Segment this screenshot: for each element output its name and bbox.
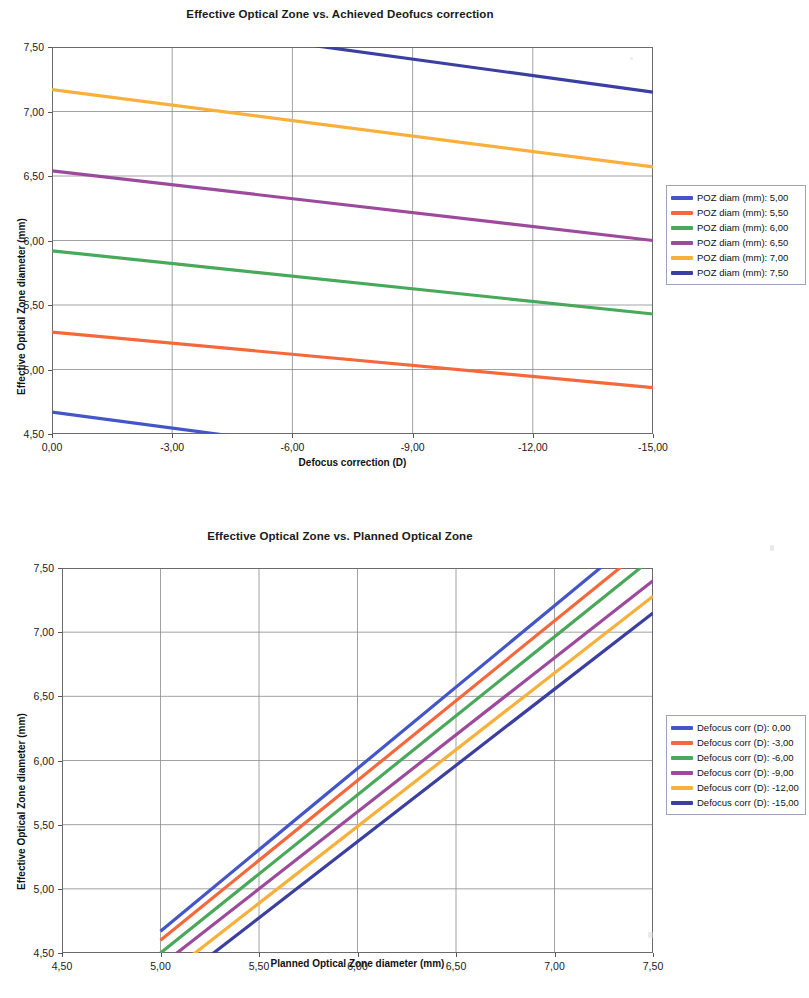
y-tick-label: 4,50 <box>20 947 54 959</box>
x-tick-mark <box>52 434 53 438</box>
legend-label: POZ diam (mm): 7,50 <box>697 268 788 278</box>
legend-color-swatch <box>671 786 693 790</box>
legend-label: POZ diam (mm): 6,50 <box>697 238 788 248</box>
x-tick-label: -15,00 <box>638 441 668 453</box>
x-tick-mark <box>555 953 556 957</box>
chart1-plot-area <box>52 47 653 434</box>
legend-item[interactable]: Defocus corr (D): -9,00 <box>671 765 800 780</box>
x-tick-label: -9,00 <box>401 441 425 453</box>
legend-label: POZ diam (mm): 5,00 <box>697 193 788 203</box>
y-tick-label: 6,00 <box>10 235 44 247</box>
y-tick-label: 6,50 <box>10 170 44 182</box>
legend-item[interactable]: Defocus corr (D): -15,00 <box>671 795 800 810</box>
x-tick-label: 6,00 <box>347 960 367 972</box>
chart2-legend: Defocus corr (D): 0,00Defocus corr (D): … <box>666 715 806 815</box>
legend-label: Defocus corr (D): -3,00 <box>697 738 794 748</box>
y-tick-label: 6,00 <box>20 755 54 767</box>
legend-item[interactable]: POZ diam (mm): 5,00 <box>671 190 800 205</box>
legend-label: POZ diam (mm): 6,00 <box>697 223 788 233</box>
x-tick-mark <box>456 953 457 957</box>
legend-color-swatch <box>671 741 693 745</box>
legend-color-swatch <box>671 226 693 230</box>
legend-item[interactable]: POZ diam (mm): 6,50 <box>671 235 800 250</box>
legend-label: Defocus corr (D): -9,00 <box>697 768 794 778</box>
scan-speck <box>630 57 633 60</box>
legend-label: POZ diam (mm): 5,50 <box>697 208 788 218</box>
y-tick-label: 4,50 <box>10 428 44 440</box>
legend-color-swatch <box>671 756 693 760</box>
x-tick-label: -3,00 <box>160 441 184 453</box>
legend-color-swatch <box>671 256 693 260</box>
legend-label: Defocus corr (D): -15,00 <box>697 798 799 808</box>
x-tick-label: 6,50 <box>446 960 466 972</box>
chart-effective-vs-planned: Effective Optical Zone vs. Planned Optic… <box>0 500 809 998</box>
x-tick-mark <box>292 434 293 438</box>
legend-color-swatch <box>671 271 693 275</box>
legend-color-swatch <box>671 196 693 200</box>
x-tick-mark <box>358 953 359 957</box>
chart-effective-vs-defocus: Effective Optical Zone vs. Achieved Deof… <box>0 0 809 500</box>
x-tick-label: 7,00 <box>544 960 564 972</box>
legend-color-swatch <box>671 211 693 215</box>
legend-item[interactable]: Defocus corr (D): -3,00 <box>671 735 800 750</box>
x-tick-mark <box>653 434 654 438</box>
x-tick-mark <box>413 434 414 438</box>
x-tick-mark <box>653 953 654 957</box>
x-tick-mark <box>533 434 534 438</box>
legend-item[interactable]: Defocus corr (D): -6,00 <box>671 750 800 765</box>
legend-label: POZ diam (mm): 7,00 <box>697 253 788 263</box>
y-tick-mark <box>58 696 62 697</box>
legend-color-swatch <box>671 241 693 245</box>
y-tick-label: 5,50 <box>10 299 44 311</box>
legend-label: Defocus corr (D): 0,00 <box>697 723 790 733</box>
y-tick-mark <box>48 370 52 371</box>
y-tick-mark <box>58 889 62 890</box>
x-tick-label: -6,00 <box>280 441 304 453</box>
y-tick-label: 5,00 <box>20 883 54 895</box>
legend-color-swatch <box>671 801 693 805</box>
y-tick-mark <box>48 112 52 113</box>
y-tick-mark <box>48 47 52 48</box>
y-tick-mark <box>58 632 62 633</box>
scan-speck <box>770 545 774 551</box>
y-tick-label: 5,50 <box>20 819 54 831</box>
legend-item[interactable]: POZ diam (mm): 7,50 <box>671 265 800 280</box>
figure-page: Effective Optical Zone vs. Achieved Deof… <box>0 0 809 998</box>
scan-speck <box>648 932 653 938</box>
y-tick-mark <box>48 241 52 242</box>
y-tick-label: 7,50 <box>20 562 54 574</box>
y-tick-label: 5,00 <box>10 364 44 376</box>
legend-item[interactable]: POZ diam (mm): 6,00 <box>671 220 800 235</box>
x-tick-mark <box>259 953 260 957</box>
chart1-legend: POZ diam (mm): 5,00POZ diam (mm): 5,50PO… <box>666 185 806 285</box>
x-tick-label: -12,00 <box>518 441 548 453</box>
y-tick-label: 7,00 <box>20 626 54 638</box>
x-tick-label: 4,50 <box>52 960 72 972</box>
chart2-title: Effective Optical Zone vs. Planned Optic… <box>0 530 680 542</box>
y-tick-mark <box>58 825 62 826</box>
y-tick-mark <box>48 176 52 177</box>
x-tick-mark <box>161 953 162 957</box>
legend-color-swatch <box>671 726 693 730</box>
y-tick-label: 7,00 <box>10 106 44 118</box>
legend-item[interactable]: Defocus corr (D): 0,00 <box>671 720 800 735</box>
x-tick-mark <box>62 953 63 957</box>
legend-color-swatch <box>671 771 693 775</box>
x-tick-label: 0,00 <box>42 441 62 453</box>
chart1-title: Effective Optical Zone vs. Achieved Deof… <box>0 8 680 20</box>
chart2-plot-area <box>62 568 653 953</box>
legend-item[interactable]: POZ diam (mm): 5,50 <box>671 205 800 220</box>
x-tick-label: 5,00 <box>150 960 170 972</box>
x-tick-label: 5,50 <box>249 960 269 972</box>
y-tick-label: 6,50 <box>20 690 54 702</box>
x-tick-label: 7,50 <box>643 960 663 972</box>
chart2-y-axis-label: Effective Optical Zone diameter (mm) <box>16 713 27 890</box>
chart1-x-axis-label: Defocus correction (D) <box>52 457 653 468</box>
legend-label: Defocus corr (D): -12,00 <box>697 783 799 793</box>
y-tick-mark <box>48 305 52 306</box>
y-tick-mark <box>58 568 62 569</box>
y-tick-label: 7,50 <box>10 41 44 53</box>
x-tick-mark <box>172 434 173 438</box>
legend-item[interactable]: POZ diam (mm): 7,00 <box>671 250 800 265</box>
legend-item[interactable]: Defocus corr (D): -12,00 <box>671 780 800 795</box>
